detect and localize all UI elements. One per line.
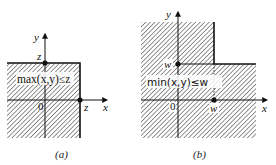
point-z-on-y-axis: [42, 60, 47, 65]
point-x-label-b: w: [210, 102, 218, 114]
figure-canvas: max(x,y)≤z y z 0 z x (a) min(x,y)≤w y w …: [0, 0, 276, 165]
panel-a: max(x,y)≤z y z 0 z x (a): [7, 31, 108, 161]
panel-b: min(x,y)≤w y w 0 w x (b): [141, 8, 267, 161]
point-w-on-y-axis: [175, 61, 180, 66]
min-region-boundary: [214, 22, 256, 64]
region-label-b: min(x,y)≤w: [147, 76, 209, 88]
region-label-a: max(x,y)≤z: [17, 73, 70, 86]
origin-label-a: 0: [38, 100, 44, 112]
x-axis-label-b: x: [261, 102, 267, 114]
y-axis-label-b: y: [165, 8, 171, 20]
caption-b: (b): [193, 148, 206, 161]
point-y-label-b: w: [164, 58, 172, 70]
caption-a: (a): [55, 148, 68, 161]
point-z-on-x-axis: [77, 97, 82, 102]
point-x-label-a: z: [83, 101, 89, 113]
point-y-label-a: z: [36, 50, 42, 62]
origin-label-b: 0: [170, 100, 176, 112]
x-axis-label-a: x: [102, 101, 108, 113]
y-axis-label-a: y: [33, 31, 39, 43]
